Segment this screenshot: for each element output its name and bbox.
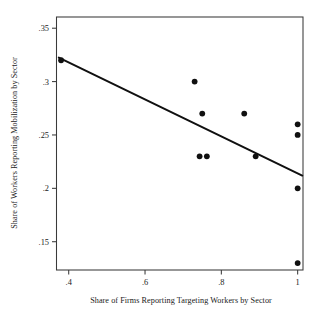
data-point [58, 57, 64, 63]
y-axis-title: Share of Workers Reporting Mobilization … [10, 57, 19, 229]
x-tick-label: 1 [296, 278, 300, 287]
data-point [241, 111, 247, 117]
data-point [253, 153, 259, 159]
y-tick-label: .2 [43, 184, 49, 193]
x-axis-title: Share of Firms Reporting Targeting Worke… [90, 296, 272, 305]
data-point [197, 153, 203, 159]
x-tick-label: .6 [142, 278, 148, 287]
y-tick-label: .3 [43, 78, 49, 87]
data-point [295, 121, 301, 127]
x-tick-label: .8 [218, 278, 224, 287]
data-point [295, 260, 301, 266]
data-point [204, 153, 210, 159]
figure-background [0, 0, 325, 319]
x-tick-label: .4 [66, 278, 73, 287]
data-point [192, 79, 198, 85]
data-point [295, 185, 301, 191]
data-point [295, 132, 301, 138]
y-tick-label: .35 [39, 24, 49, 33]
data-point [199, 111, 205, 117]
scatter-plot-figure: .4.6.81 .15.2.25.3.35 Share of Firms Rep… [0, 0, 325, 319]
y-tick-label: .15 [39, 238, 49, 247]
y-tick-label: .25 [39, 131, 49, 140]
